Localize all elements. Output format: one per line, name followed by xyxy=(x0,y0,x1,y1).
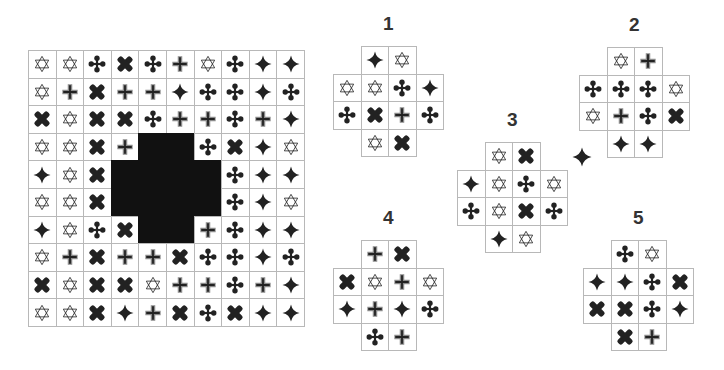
grid-cell[interactable] xyxy=(361,268,390,297)
club-cross-icon xyxy=(462,202,480,220)
grid-cell[interactable] xyxy=(540,197,569,226)
grid-cell xyxy=(83,78,112,107)
grid-cell[interactable] xyxy=(388,295,417,324)
grid-cell[interactable] xyxy=(361,101,390,130)
club-cross-icon xyxy=(199,83,217,101)
grid-cell[interactable] xyxy=(485,170,514,199)
grid-cell xyxy=(276,243,305,272)
grid-cell[interactable] xyxy=(634,47,663,76)
star-of-david-icon xyxy=(61,193,79,211)
grid-cell[interactable] xyxy=(638,295,667,324)
star-of-david-icon xyxy=(366,134,384,152)
grid-cell[interactable] xyxy=(333,101,362,130)
plus-icon xyxy=(393,273,411,291)
grid-cell[interactable] xyxy=(611,240,640,269)
grid-cell xyxy=(56,78,85,107)
grid-cell xyxy=(83,243,112,272)
club-cross-icon xyxy=(144,55,162,73)
grid-cell[interactable] xyxy=(388,101,417,130)
club-cross-icon xyxy=(226,83,244,101)
grid-cell xyxy=(166,271,195,300)
grid-cell[interactable] xyxy=(388,74,417,103)
star-of-david-icon xyxy=(393,51,411,69)
four-point-star-icon xyxy=(254,248,272,266)
grid-cell[interactable] xyxy=(361,46,390,75)
grid-cell[interactable] xyxy=(333,74,362,103)
four-point-star-icon xyxy=(462,175,480,193)
grid-cell xyxy=(276,78,305,107)
star-of-david-icon xyxy=(33,83,51,101)
grid-cell[interactable] xyxy=(662,75,691,104)
club-cross-icon xyxy=(643,300,661,318)
grid-cell[interactable] xyxy=(457,197,486,226)
missing-cell xyxy=(111,188,140,217)
x-cross-icon xyxy=(517,202,535,220)
grid-cell[interactable] xyxy=(579,102,608,131)
grid-cell[interactable] xyxy=(361,240,390,269)
grid-cell[interactable] xyxy=(361,323,390,352)
grid-cell[interactable] xyxy=(361,295,390,324)
grid-cell[interactable] xyxy=(638,240,667,269)
grid-cell[interactable] xyxy=(333,295,362,324)
grid-cell[interactable] xyxy=(634,102,663,131)
grid-cell[interactable] xyxy=(611,268,640,297)
grid-cell[interactable] xyxy=(361,74,390,103)
grid-cell[interactable] xyxy=(485,197,514,226)
grid-cell[interactable] xyxy=(611,295,640,324)
grid-cell[interactable] xyxy=(607,75,636,104)
grid-cell[interactable] xyxy=(634,130,663,159)
grid-cell[interactable] xyxy=(416,74,445,103)
grid-cell[interactable] xyxy=(666,268,695,297)
club-cross-icon xyxy=(226,55,244,73)
grid-cell[interactable] xyxy=(579,75,608,104)
grid-cell[interactable] xyxy=(388,268,417,297)
grid-cell[interactable] xyxy=(416,268,445,297)
grid-cell[interactable] xyxy=(634,75,663,104)
plus-icon xyxy=(171,110,189,128)
grid-cell[interactable] xyxy=(512,197,541,226)
grid-cell[interactable] xyxy=(457,170,486,199)
grid-cell[interactable] xyxy=(416,295,445,324)
grid-cell xyxy=(166,50,195,79)
grid-cell[interactable] xyxy=(512,225,541,254)
x-cross-icon xyxy=(88,248,106,266)
four-point-star-icon xyxy=(366,51,384,69)
grid-cell xyxy=(56,216,85,245)
plus-icon xyxy=(171,55,189,73)
grid-cell[interactable] xyxy=(485,225,514,254)
grid-cell[interactable] xyxy=(361,129,390,158)
grid-cell xyxy=(194,216,223,245)
grid-cell[interactable] xyxy=(607,130,636,159)
four-point-star-icon xyxy=(282,55,300,73)
grid-cell[interactable] xyxy=(512,142,541,171)
grid-cell[interactable] xyxy=(333,268,362,297)
grid-cell xyxy=(249,105,278,134)
grid-cell[interactable] xyxy=(416,101,445,130)
grid-cell xyxy=(111,298,140,327)
grid-cell[interactable] xyxy=(638,268,667,297)
grid-cell[interactable] xyxy=(666,295,695,324)
grid-cell[interactable] xyxy=(388,46,417,75)
grid-cell[interactable] xyxy=(607,102,636,131)
grid-cell[interactable] xyxy=(512,170,541,199)
grid-cell[interactable] xyxy=(607,47,636,76)
grid-cell[interactable] xyxy=(583,295,612,324)
grid-cell xyxy=(221,298,250,327)
grid-cell[interactable] xyxy=(388,323,417,352)
grid-cell xyxy=(138,271,167,300)
grid-cell[interactable] xyxy=(540,170,569,199)
grid-cell[interactable] xyxy=(388,240,417,269)
club-cross-icon xyxy=(366,328,384,346)
grid-cell xyxy=(249,133,278,162)
grid-cell[interactable] xyxy=(662,102,691,131)
grid-cell xyxy=(111,271,140,300)
four-point-star-icon xyxy=(33,221,51,239)
grid-cell[interactable] xyxy=(611,323,640,352)
grid-cell xyxy=(111,133,140,162)
grid-cell xyxy=(28,243,57,272)
grid-cell[interactable] xyxy=(485,142,514,171)
grid-cell[interactable] xyxy=(583,268,612,297)
star-of-david-icon xyxy=(612,52,630,70)
grid-cell[interactable] xyxy=(388,129,417,158)
grid-cell[interactable] xyxy=(638,323,667,352)
